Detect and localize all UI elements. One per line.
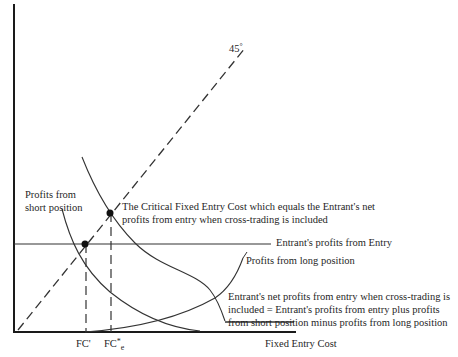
- net-profits-label: Entrant's net profits from entry when cr…: [228, 290, 450, 329]
- long-position-label: Profits from long position: [246, 254, 355, 267]
- net-profits-curve: [82, 157, 225, 321]
- x-axis-label: Fixed Entry Cost: [265, 337, 337, 350]
- intersection-point-fc-prime: [82, 241, 89, 248]
- net-profits-label-line3: from short position minus profits from l…: [228, 316, 450, 329]
- long-position-curve: [85, 258, 243, 332]
- net-profits-label-line2: included = Entrant's profits from entry …: [228, 303, 450, 316]
- short-position-label-line1: Profits from: [25, 188, 82, 201]
- critical-cost-label-line2: profits from entry when cross-trading is…: [122, 213, 375, 226]
- critical-cost-label-line1: The Critical Fixed Entry Cost which equa…: [122, 200, 375, 213]
- tick-fc-e-subscript: e: [121, 343, 125, 352]
- net-profits-label-line1: Entrant's net profits from entry when cr…: [228, 290, 450, 303]
- intersection-point-critical: [107, 210, 114, 217]
- tick-fc-e: FC*e: [104, 337, 124, 351]
- tick-fc-prime: FC': [76, 337, 91, 350]
- short-position-label: Profits from short position: [25, 188, 82, 214]
- tick-fc-e-base: FC: [104, 338, 117, 349]
- angle-label: 45°: [229, 42, 243, 56]
- degree-symbol: °: [240, 42, 243, 51]
- entrant-profits-label: Entrant's profits from Entry: [276, 236, 392, 249]
- critical-cost-label: The Critical Fixed Entry Cost which equa…: [122, 200, 375, 226]
- short-position-label-line2: short position: [25, 201, 82, 214]
- angle-value: 45: [229, 43, 240, 54]
